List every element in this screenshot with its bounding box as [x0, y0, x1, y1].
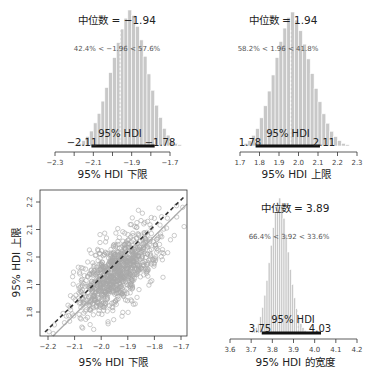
tick-label: 4.2 — [351, 346, 362, 354]
scatter-point — [98, 232, 102, 236]
scatter-point — [164, 226, 168, 230]
histogram-bar — [128, 10, 132, 146]
scatter-point — [114, 231, 118, 235]
tick-label: 3.6 — [224, 346, 236, 354]
tick-label: 2.0 — [26, 251, 34, 262]
scatter-point — [128, 291, 132, 295]
median-label: 中位数 = 3.89 — [261, 202, 330, 214]
histogram-bar — [124, 18, 128, 146]
tick-label: −1.7 — [173, 343, 190, 351]
hdi-label: 95% HDI — [266, 128, 310, 139]
histogram-bar — [291, 12, 295, 146]
scatter-point — [146, 274, 150, 278]
comparison-label: 66.4% < 3.92 < 33.6% — [249, 233, 330, 241]
scatter-point — [161, 275, 165, 279]
tick-label: 1.9 — [273, 159, 284, 167]
tick-label: 2.3 — [351, 159, 362, 167]
scatter-point — [135, 295, 139, 299]
hdi-high-label: 2.11 — [313, 137, 335, 148]
tick-label: 3.8 — [267, 346, 278, 354]
scatter-points — [47, 204, 186, 336]
hdi-low-label: −2.11 — [67, 137, 98, 148]
histogram-bar — [143, 56, 147, 146]
scatter-point — [152, 216, 156, 220]
histogram-bar — [101, 101, 105, 146]
scatter-point — [92, 327, 96, 331]
histogram-hdi-upper: 1.71.81.92.02.12.22.3 中位数 = 1.94 58.2% <… — [234, 12, 362, 180]
histogram-bar — [310, 74, 314, 146]
scatter-point — [100, 312, 104, 316]
tick-label: −2.0 — [93, 343, 110, 351]
hdi-low-label: 3.75 — [249, 323, 271, 334]
histogram-bars — [74, 10, 181, 146]
scatter-point — [149, 215, 153, 219]
scatter-point — [91, 313, 95, 317]
tick-label: 2.0 — [293, 159, 304, 167]
histogram-bars — [251, 198, 312, 333]
scatter-point — [116, 226, 120, 230]
tick-label: −1.9 — [119, 343, 136, 351]
scatter-point — [140, 211, 144, 215]
scatter-point — [71, 270, 75, 274]
scatter-point — [157, 242, 161, 246]
tick-label: −1.7 — [162, 159, 179, 167]
scatter-point — [104, 236, 108, 240]
histogram-bar — [338, 141, 342, 146]
histogram-bar — [147, 74, 151, 146]
tick-label: −1.8 — [146, 343, 163, 351]
scatter-point — [142, 273, 146, 277]
tick-label: 4.0 — [309, 346, 320, 354]
x-axis: 3.63.73.83.94.04.14.2 — [224, 339, 362, 354]
x-axis-title: 95% HDI 上限 — [261, 168, 331, 180]
histogram-bar — [279, 198, 281, 333]
y-axis: 1.81.92.02.12.2 — [26, 196, 40, 317]
tick-label: 4.1 — [330, 346, 341, 354]
scatter-point — [166, 251, 170, 255]
x-axis-title: 95% HDI 的宽度 — [255, 356, 335, 368]
scatter-point — [137, 287, 141, 291]
scatter-point — [165, 216, 169, 220]
scatter-point — [74, 293, 78, 297]
scatter-point — [160, 250, 164, 254]
histogram-bar — [263, 106, 267, 146]
scatter-point — [88, 322, 92, 326]
histogram-bar — [341, 143, 345, 146]
tick-label: 1.8 — [254, 159, 265, 167]
tick-label: 3.7 — [246, 346, 257, 354]
scatter-point — [136, 208, 140, 212]
hdi-high-label: −1.78 — [145, 137, 176, 148]
scatter-point — [97, 311, 101, 315]
scatter-point — [149, 231, 153, 235]
histogram-hdi-width: 3.63.73.83.94.04.14.2 中位数 = 3.89 66.4% <… — [224, 198, 362, 368]
scatter-point — [86, 260, 90, 264]
histogram-bars — [240, 12, 349, 146]
figure-canvas: −2.3−2.1−1.9−1.7 中位数 = −1.94 42.4% < −1.… — [0, 0, 375, 376]
scatter-point — [112, 318, 116, 322]
tick-label: −2.1 — [85, 159, 102, 167]
comparison-label: 42.4% < −1.96 < 57.6% — [74, 45, 161, 53]
x-axis: −2.2−2.1−2.0−1.9−1.8−1.7 — [40, 336, 190, 351]
scatter-point — [130, 216, 134, 220]
x-axis-title: 95% HDI 下限 — [77, 168, 147, 180]
tick-label: 2.1 — [312, 159, 323, 167]
tick-label: −2.1 — [66, 343, 83, 351]
tick-label: 3.9 — [288, 346, 299, 354]
scatter-point — [70, 275, 74, 279]
tick-label: 2.1 — [26, 224, 34, 235]
scatter-point — [172, 233, 176, 237]
scatter-point — [138, 275, 142, 279]
tick-label: −1.9 — [123, 159, 140, 167]
hdi-high-label: 4.03 — [309, 323, 331, 334]
scatter-point — [158, 223, 162, 227]
x-axis: 1.71.81.92.02.12.22.3 — [234, 152, 362, 167]
scatter-point — [157, 206, 161, 210]
scatter-point — [98, 240, 102, 244]
tick-label: 1.8 — [26, 306, 34, 317]
scatter-point — [168, 238, 172, 242]
scatter-point — [142, 222, 146, 226]
tick-label: 1.9 — [26, 279, 34, 290]
scatter-point — [117, 235, 121, 239]
histogram-bar — [345, 145, 349, 146]
tick-label: −2.3 — [47, 159, 64, 167]
y-axis-title: 95% HDI 上限 — [10, 227, 22, 297]
